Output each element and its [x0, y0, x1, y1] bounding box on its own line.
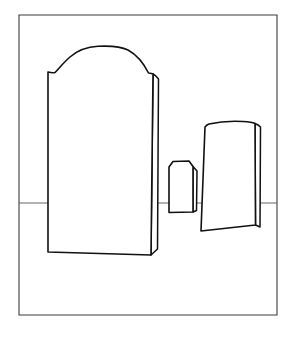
right-stone-front-face — [201, 121, 256, 231]
line-drawing-scene — [0, 0, 292, 340]
large-arched-stone — [48, 46, 159, 255]
small-chamfered-stone — [169, 161, 197, 213]
tilted-block-stone — [201, 121, 261, 231]
drawing-canvas — [0, 0, 292, 340]
large-stone-front-face — [48, 46, 153, 255]
small-stone-front-face — [169, 161, 193, 213]
